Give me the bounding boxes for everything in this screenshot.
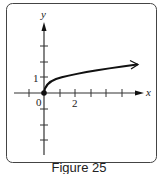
- y-tick-label-1: 1: [33, 72, 39, 84]
- x-axis-arrow-icon: [135, 91, 144, 96]
- x-axis-label: x: [145, 86, 151, 98]
- figure-graph: y x 1 0 2: [0, 0, 158, 174]
- sqrt-curve: [44, 65, 137, 94]
- x-tick-label-2: 2: [72, 97, 78, 109]
- y-axis-label: y: [40, 8, 46, 20]
- figure-frame: [7, 4, 157, 163]
- x-axis: [14, 89, 144, 97]
- origin-point: [41, 90, 47, 96]
- y-axis-arrow-icon: [42, 22, 47, 31]
- origin-label: 0: [36, 96, 42, 108]
- figure-caption: Figure 25: [0, 160, 158, 174]
